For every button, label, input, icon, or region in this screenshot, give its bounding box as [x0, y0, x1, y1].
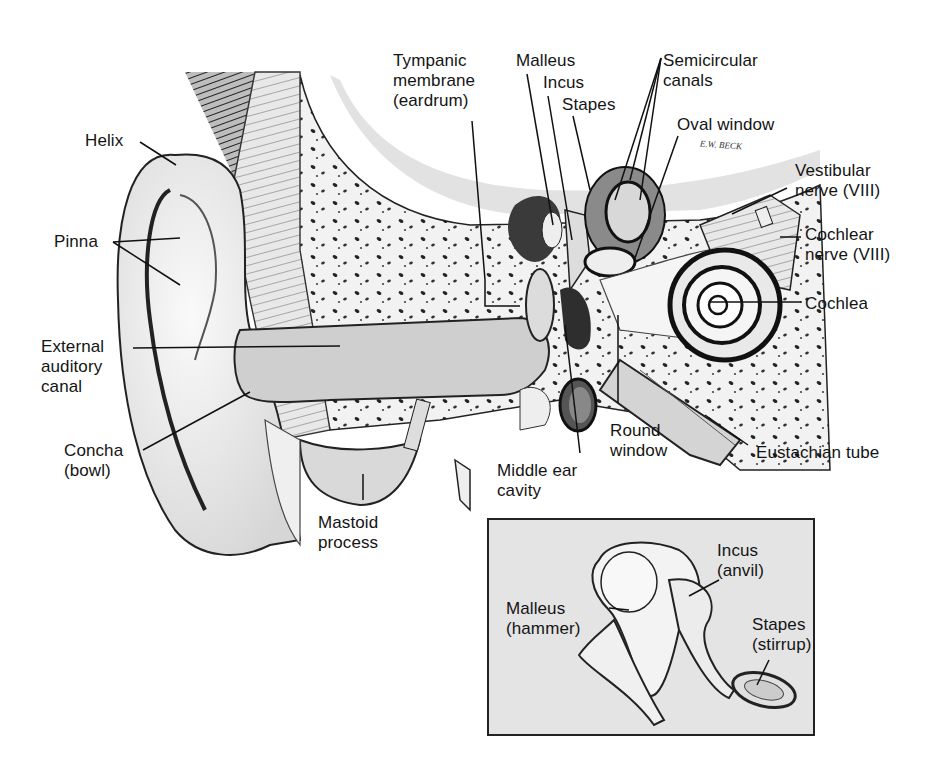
label-vestibular-nerve: Vestibular nerve (VIII)	[795, 161, 880, 201]
label-external-auditory-canal: External auditory canal	[41, 337, 104, 397]
label-concha: Concha (bowl)	[64, 441, 123, 481]
label-malleus: Malleus	[516, 51, 575, 71]
label-round-window: Round window	[610, 421, 667, 461]
label-cochlea: Cochlea	[805, 294, 868, 314]
label-helix: Helix	[85, 131, 123, 151]
styloid-process	[455, 460, 470, 510]
label-cochlear-nerve: Cochlear nerve (VIII)	[805, 225, 890, 265]
label-inset-incus: Incus (anvil)	[717, 541, 764, 581]
label-stapes: Stapes	[562, 95, 616, 115]
label-mastoid-process: Mastoid process	[318, 513, 378, 553]
label-eustachian-tube: Eustachian tube	[756, 443, 879, 463]
label-inset-stapes: Stapes (stirrup)	[752, 615, 811, 655]
eardrum-shape	[526, 269, 554, 341]
cochlea-shape	[670, 250, 780, 360]
label-incus: Incus	[543, 73, 584, 93]
label-oval-window: Oval window	[677, 115, 774, 135]
label-middle-ear-cavity: Middle ear cavity	[497, 461, 577, 501]
label-pinna: Pinna	[54, 232, 98, 252]
label-tympanic-membrane: Tympanic membrane (eardrum)	[393, 51, 475, 111]
label-inset-malleus: Malleus (hammer)	[506, 599, 580, 639]
external-canal-shape	[235, 318, 549, 402]
label-semicircular-canals: Semicircular canals	[663, 51, 758, 91]
